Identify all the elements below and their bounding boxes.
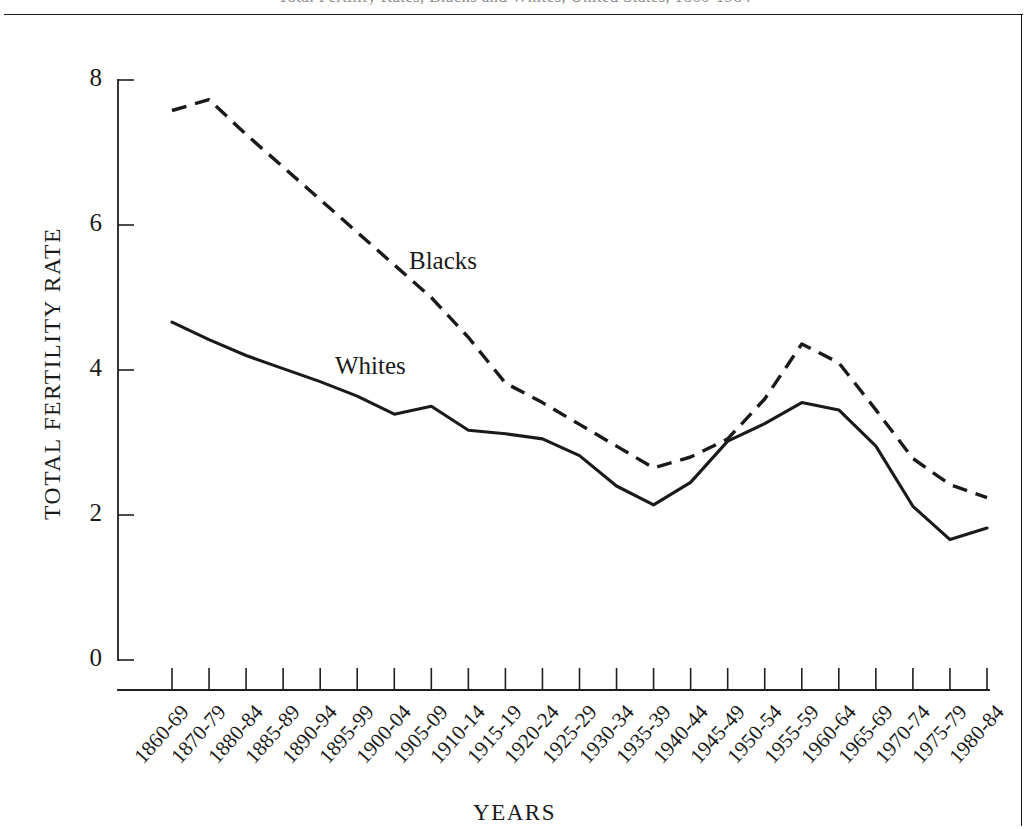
y-axis-tick-label: 6	[62, 209, 102, 237]
series-line-blacks	[172, 100, 987, 498]
y-axis-ticks	[118, 80, 134, 660]
y-axis-tick-label: 8	[62, 64, 102, 92]
series-annotation-whites: Whites	[335, 352, 406, 380]
y-axis-tick-label: 4	[62, 354, 102, 382]
y-axis-tick-label: 0	[62, 644, 102, 672]
series-annotation-blacks: Blacks	[409, 247, 477, 275]
series-line-whites	[172, 322, 987, 539]
chart-series	[172, 100, 987, 540]
x-axis-ticks	[172, 668, 987, 690]
x-axis-title: YEARS	[0, 800, 1029, 826]
chart-page: Total Fertility Rates, Blacks and Whites…	[0, 0, 1029, 829]
y-axis-tick-label: 2	[62, 499, 102, 527]
